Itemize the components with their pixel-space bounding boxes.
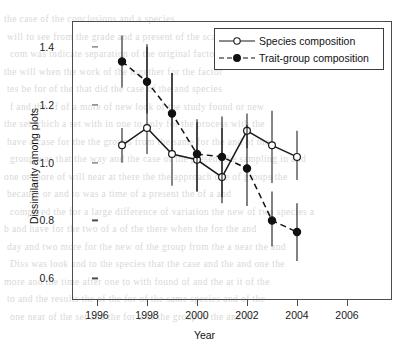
data-point-open-circle xyxy=(169,151,176,158)
data-point-filled-circle xyxy=(268,217,275,224)
data-point-filled-circle xyxy=(168,110,175,117)
chart-figure: 0.60.81.01.21.4 199619982000200220042006… xyxy=(0,0,409,351)
data-point-open-circle xyxy=(144,125,151,132)
data-point-filled-circle xyxy=(243,165,250,172)
data-point-filled-circle xyxy=(218,153,225,160)
figure-root: the case of the conclusions and a specie… xyxy=(0,0,409,351)
data-point-open-circle xyxy=(119,142,126,149)
legend-entry-trait-group: Trait-group composition xyxy=(215,49,383,67)
data-point-open-circle xyxy=(269,142,276,149)
legend-entry-species: Species composition xyxy=(215,32,383,50)
data-point-filled-circle xyxy=(143,78,150,85)
data-point-filled-circle xyxy=(193,150,200,157)
series-line xyxy=(122,128,297,177)
data-point-filled-circle xyxy=(293,228,300,235)
legend-label-trait-group: Trait-group composition xyxy=(259,52,369,64)
data-point-filled-circle xyxy=(118,58,125,65)
chart-legend: Species composition Trait-group composit… xyxy=(214,28,384,70)
legend-key-open-circle-icon xyxy=(215,32,259,50)
data-point-open-circle xyxy=(294,153,301,160)
legend-label-species: Species composition xyxy=(259,35,355,47)
legend-key-filled-circle-icon xyxy=(215,49,259,67)
